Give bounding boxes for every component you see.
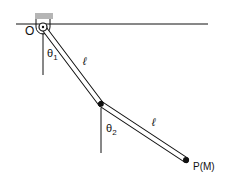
- double-pendulum-diagram: O θ1 ℓ θ2 ℓ P(M): [0, 0, 235, 181]
- rod-1: [43, 27, 101, 104]
- length2-label: ℓ: [151, 116, 156, 128]
- pivot-label: O: [25, 24, 34, 38]
- middle-joint: [98, 101, 104, 107]
- angle2-label: θ2: [106, 122, 117, 137]
- mass-label: P(M): [193, 161, 215, 172]
- ceiling-support: [35, 13, 53, 19]
- end-mass: [183, 157, 189, 163]
- length1-label: ℓ: [82, 55, 87, 67]
